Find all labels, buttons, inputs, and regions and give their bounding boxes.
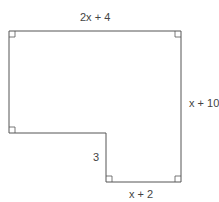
label-bottom: x + 2 (129, 188, 153, 200)
right-angle-top-left (9, 31, 15, 37)
label-right: x + 10 (189, 97, 219, 109)
label-step: 3 (93, 151, 99, 163)
right-angle-bottom-left (106, 176, 112, 182)
right-angle-step-left (9, 127, 15, 133)
right-angle-top-right (175, 31, 181, 37)
l-shape-diagram (0, 0, 219, 202)
label-top: 2x + 4 (80, 11, 110, 23)
right-angle-bottom-right (175, 176, 181, 182)
